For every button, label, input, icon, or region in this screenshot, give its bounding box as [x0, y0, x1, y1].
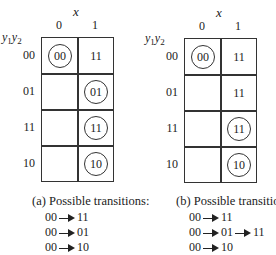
state-cell	[185, 111, 221, 147]
column-label: 1	[220, 19, 256, 34]
state-code: 10	[221, 240, 233, 254]
state-cell: 11	[221, 39, 257, 75]
state-cell: 11	[221, 75, 257, 111]
stable-state-cell: 10	[221, 147, 257, 183]
state-code: 00	[45, 225, 57, 239]
state-code: 10	[77, 240, 89, 254]
y2-subscript: 2	[17, 36, 22, 46]
y2-subscript: 2	[160, 37, 165, 47]
cell-value: 00	[48, 44, 72, 68]
cell-value: 10	[227, 153, 251, 177]
arrow-right-icon	[235, 229, 251, 237]
arrow-right-icon	[203, 229, 219, 237]
transition-line: 0011	[45, 210, 89, 225]
cell-value: 11	[233, 50, 245, 65]
state-cell	[42, 146, 78, 182]
state-cell	[185, 147, 221, 183]
transition-line: 0010	[45, 240, 89, 255]
state-code: 00	[189, 210, 201, 224]
arrow-right-icon	[59, 214, 75, 222]
arrow-right-icon	[203, 214, 219, 222]
stable-state-cell: 11	[221, 111, 257, 147]
transition-line: 0001	[45, 225, 89, 240]
arrow-right-icon	[203, 244, 219, 252]
stable-state-cell: 10	[78, 146, 114, 182]
stable-state-cell: 00	[42, 38, 78, 74]
transition-line: 0010	[189, 240, 233, 255]
state-cell	[185, 75, 221, 111]
state-cell: 11	[78, 38, 114, 74]
stable-state-cell: 11	[78, 110, 114, 146]
row-label: 11	[154, 121, 178, 136]
row-label: 10	[154, 157, 178, 172]
row-label: 11	[11, 120, 35, 135]
stable-state-cell: 00	[185, 39, 221, 75]
row-label: 01	[154, 85, 178, 100]
state-code: 00	[189, 240, 201, 254]
y-axis-label: y1y2	[145, 31, 165, 47]
cell-value: 11	[233, 86, 245, 101]
state-code: 11	[221, 210, 233, 224]
row-label: 00	[154, 49, 178, 64]
caption: (a) Possible transitions:	[32, 194, 149, 209]
row-label: 00	[11, 48, 35, 63]
state-cell	[42, 110, 78, 146]
y-axis-label: y1y2	[2, 30, 22, 46]
caption: (b) Possible transitions:	[176, 194, 276, 209]
arrow-right-icon	[59, 244, 75, 252]
state-code: 00	[189, 225, 201, 239]
cell-value: 11	[84, 116, 108, 140]
state-code: 00	[45, 240, 57, 254]
cell-value: 11	[90, 49, 102, 64]
column-label: 0	[184, 19, 220, 34]
column-label: 0	[41, 18, 77, 33]
state-code: 11	[253, 225, 265, 239]
stable-state-cell: 01	[78, 74, 114, 110]
row-label: 10	[11, 156, 35, 171]
column-label: 1	[77, 18, 113, 33]
arrow-right-icon	[59, 229, 75, 237]
state-code: 01	[77, 225, 89, 239]
row-label: 01	[11, 84, 35, 99]
state-code: 00	[45, 210, 57, 224]
state-code: 01	[221, 225, 233, 239]
cell-value: 11	[227, 117, 251, 141]
transition-line: 000111	[189, 225, 265, 240]
cell-value: 01	[84, 80, 108, 104]
cell-value: 00	[191, 45, 215, 69]
state-cell	[42, 74, 78, 110]
state-code: 11	[77, 210, 89, 224]
transition-line: 0011	[189, 210, 233, 225]
cell-value: 10	[84, 152, 108, 176]
